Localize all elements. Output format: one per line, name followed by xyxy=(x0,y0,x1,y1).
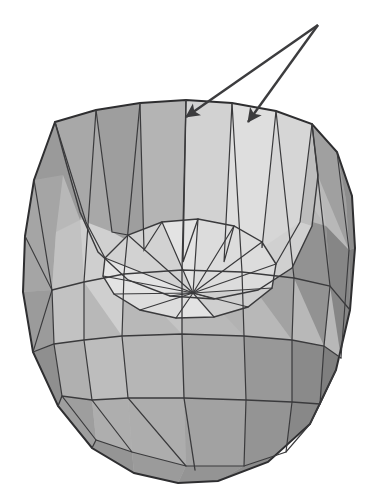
outer-band-base xyxy=(58,396,320,483)
figure-root: FLOW BOTTOM xyxy=(0,0,376,493)
bowl-mesh-graphic xyxy=(0,0,376,493)
